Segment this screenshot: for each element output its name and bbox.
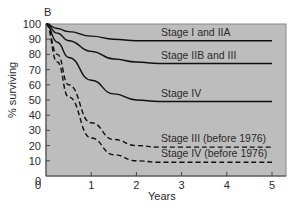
y-tick-label: 80 (29, 48, 41, 60)
y-tick-label: 20 (29, 140, 41, 152)
curve-label: Stage IV (161, 87, 201, 99)
panel-label: B (44, 6, 51, 18)
curve-label: Stage III (before 1976) (161, 132, 266, 144)
x-tick-label: 1 (88, 179, 94, 191)
y-tick-label: 100 (23, 18, 41, 30)
y-tick-label: 90 (29, 33, 41, 45)
survival-chart: B 0102030405060708090100 012345 Stage I … (0, 0, 293, 212)
y-tick-label: 10 (29, 155, 41, 167)
x-tick-label: 2 (133, 179, 139, 191)
curve-label: Stage IIB and III (161, 49, 236, 61)
y-tick-label: 30 (29, 124, 41, 136)
y-tick-label: 50 (29, 94, 41, 106)
curve-label: Stage I and IIA (161, 26, 230, 38)
x-tick-label: 5 (269, 179, 275, 191)
y-tick-label: 60 (29, 79, 41, 91)
x-axis-label: Years (148, 190, 176, 202)
x-tick-label: 4 (224, 179, 230, 191)
y-axis-label: % surviving (6, 62, 18, 118)
y-tick-label: 70 (29, 64, 41, 76)
curve-label: Stage IV (before 1976) (161, 147, 267, 159)
y-tick-label: 40 (29, 109, 41, 121)
x-tick-label: 0 (35, 179, 41, 191)
x-tick-label: 3 (179, 179, 185, 191)
